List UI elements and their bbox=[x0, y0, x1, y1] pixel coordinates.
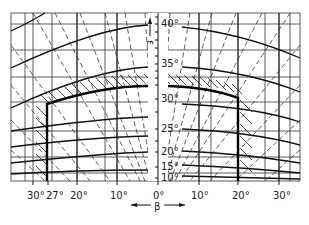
beta-left-arrow-icon bbox=[131, 203, 151, 207]
epsilon-label-40: 40° bbox=[161, 18, 179, 29]
epsilon-label-30: 30° bbox=[161, 93, 179, 104]
epsilon-label-20: 20° bbox=[161, 146, 179, 157]
beta-axis-labels: 30° 27° 20° 10° 0° 10° 20° 30° bbox=[27, 190, 291, 201]
projection-diagram: 40° 35° 30° 25° 20° 15° 10° ε 30° 27° 20… bbox=[0, 0, 309, 225]
epsilon-label-35: 35° bbox=[161, 58, 179, 69]
beta-right-arrow-icon bbox=[164, 203, 185, 207]
epsilon-label-15: 15° bbox=[161, 161, 179, 172]
beta-label-left-20: 20° bbox=[70, 190, 88, 201]
beta-label-right-10: 10° bbox=[191, 190, 209, 201]
beta-label-left-30: 30° bbox=[27, 190, 45, 201]
beta-label-left-10: 10° bbox=[110, 190, 128, 201]
beta-symbol: β bbox=[154, 201, 160, 212]
beta-label-left-27: 27° bbox=[46, 190, 64, 201]
beta-axis-ticks bbox=[33, 181, 279, 185]
beta-label-center-0: 0° bbox=[153, 190, 164, 201]
beta-label-right-20: 20° bbox=[232, 190, 250, 201]
beta-label-right-30: 30° bbox=[273, 190, 291, 201]
epsilon-label-25: 25° bbox=[161, 123, 179, 134]
epsilon-label-10: 10° bbox=[161, 172, 179, 183]
epsilon-symbol: ε bbox=[145, 40, 156, 45]
